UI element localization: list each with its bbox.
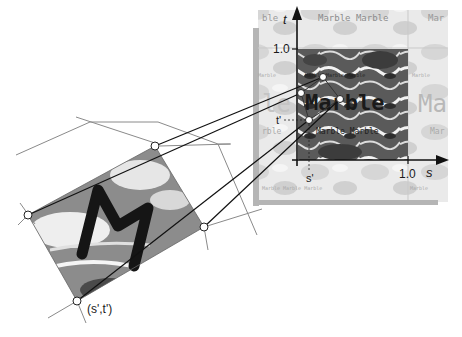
t-tick-label: 1.0 [273,42,290,56]
texture-text-mid-left: rble [262,127,281,136]
s-tick-label: 1.0 [399,167,416,181]
texture-vertex-top [320,74,327,81]
surface-vertex-right [200,223,208,231]
s-prime-label: s' [306,172,314,184]
texture-text-mid: Marble Marble [316,127,379,136]
texture-vertex-left [298,90,305,97]
surface-vertex-left [24,211,32,219]
texture-text-large: Marble [305,90,384,115]
s-axis-label: s [426,165,433,180]
texture-text-ghost-right: Ma [418,90,447,118]
texture-panel: ble Marble Marble Mar Marble Marble Marb… [253,10,448,206]
panel-border-bottom [253,200,438,205]
point-label-s-t: (s',t') [87,302,112,316]
texture-vertex-right [337,96,344,103]
surface-vertex-top [151,142,159,150]
t-prime-label: t' [276,114,281,126]
texture-text-bottom: Marble Marble Marble [262,185,322,191]
texture-text-mid-right: Mar [430,127,445,136]
texture-vertex-bottom [306,117,313,124]
texture-text-top: Marble Marble [318,13,388,23]
texture-text-tiny-right: Marble [412,72,430,78]
texture-mapping-figure: ble Marble Marble Mar Marble Marble Marb… [0,0,462,337]
surface-patch [20,140,220,310]
texture-text-top-left: ble [262,13,278,23]
surface-vertex-bottom [73,297,81,305]
texture-text-tiny-left: Marble [258,72,276,78]
texture-text-bottom-right: Marble [410,185,428,191]
texture-text-top-right: Mar [428,13,445,23]
texture-text-tiny: Marble Marble Marble [305,72,365,78]
